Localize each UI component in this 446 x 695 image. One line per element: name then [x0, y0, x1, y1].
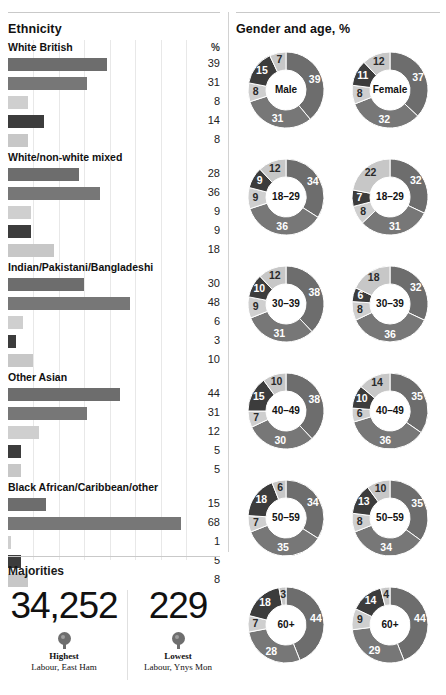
donut-chart: 38319101230–39	[236, 254, 336, 358]
ethnicity-group: White British%39318148	[0, 40, 228, 150]
donut-center-label: 40–49	[236, 405, 336, 416]
donut-slice-label: 13	[354, 496, 374, 507]
majority-lowest-sub: Labour, Ynys Mon	[130, 662, 226, 673]
bar-value-label: 15	[196, 497, 220, 509]
donut-chart: 4429914460+	[340, 575, 440, 679]
donut-center-label: 18–29	[340, 191, 440, 202]
ethnicity-group-label: White British%	[0, 40, 228, 55]
donut-slice-label: 3	[273, 589, 293, 600]
bar	[8, 115, 44, 128]
donut-slice-label: 18	[364, 272, 384, 283]
donut-slice-label: 31	[267, 113, 287, 124]
donut-slice-label: 36	[380, 329, 400, 340]
ethnicity-group: Other Asian44311255	[0, 370, 228, 480]
donut-row: 3435718650–5935348131050–59	[228, 468, 446, 575]
donut-row: 38319101230–393236861830–39	[228, 254, 446, 361]
donut-slice-label: 10	[267, 376, 287, 387]
bar-value-label: 3	[196, 334, 220, 346]
bar-row: 18	[0, 241, 228, 260]
donut-slice-label: 22	[361, 167, 381, 178]
bar-row: 36	[0, 184, 228, 203]
bar	[8, 77, 87, 90]
donut-slice-label: 12	[265, 270, 285, 281]
bar	[8, 517, 181, 530]
majority-lowest-number: 229	[130, 586, 226, 626]
bar	[8, 536, 11, 549]
bar-row: 6	[0, 313, 228, 332]
donut-row: 39318157Male373281112Female	[228, 40, 446, 147]
ethnicity-group-label: Other Asian	[0, 370, 228, 385]
donut-chart: 3436991218–29	[236, 147, 336, 251]
bar-row: 39	[0, 55, 228, 74]
donut-center-label: Male	[236, 84, 336, 95]
majority-lowest: 229 Lowest Labour, Ynys Mon	[130, 586, 226, 673]
donut-slice-label: 39	[305, 74, 325, 85]
bar-value-label: 48	[196, 296, 220, 308]
bar-value-label: 9	[196, 205, 220, 217]
donut-slice	[390, 159, 428, 213]
divider-top-right	[236, 12, 440, 13]
infographic-page: Ethnicity Gender and age, % White Britis…	[0, 0, 446, 695]
donut-row: 38307151040–4935366101440–49	[228, 361, 446, 468]
bar-value-label: 12	[196, 425, 220, 437]
donut-slice-label: 11	[353, 70, 373, 81]
majority-highest-label: Highest	[4, 651, 124, 662]
bar-value-label: 68	[196, 516, 220, 528]
donut-slice-label: 30	[270, 435, 290, 446]
bar-row: 8	[0, 131, 228, 150]
bar	[8, 244, 54, 257]
majority-highest-sub: Labour, East Ham	[4, 662, 124, 673]
donut-slice-label: 32	[374, 114, 394, 125]
bar-row: 48	[0, 294, 228, 313]
donut-slice-label: 10	[249, 283, 269, 294]
map-pin-icon	[172, 632, 185, 649]
bar-row: 9	[0, 203, 228, 222]
donut-slice-label: 18	[255, 597, 275, 608]
bar-value-label: 39	[196, 57, 220, 69]
majorities-section: Majorities 34,252 Highest Labour, East H…	[0, 556, 228, 695]
bar	[8, 225, 31, 238]
donut-center-label: 60+	[236, 619, 336, 630]
donut-chart: 3435718650–59	[236, 468, 336, 572]
bar-row: 12	[0, 423, 228, 442]
bar-row: 31	[0, 74, 228, 93]
majority-highest-number: 34,252	[4, 586, 124, 626]
bar	[8, 134, 28, 147]
bar	[8, 445, 21, 458]
donut-slice-label: 36	[375, 435, 395, 446]
majorities-heading: Majorities	[8, 564, 64, 578]
bar-row: 1	[0, 533, 228, 552]
bar-row: 15	[0, 495, 228, 514]
bar	[8, 388, 120, 401]
donut-slice-label: 7	[269, 54, 289, 65]
bar-value-label: 36	[196, 186, 220, 198]
bar	[8, 316, 23, 329]
bar	[8, 297, 130, 310]
bar-row: 5	[0, 461, 228, 480]
donut-center-label: Female	[340, 84, 440, 95]
donut-slice-label: 31	[385, 221, 405, 232]
donut-slice-label: 34	[303, 176, 323, 187]
donut-slice-label: 34	[376, 542, 396, 553]
bar	[8, 206, 31, 219]
bar-value-label: 30	[196, 277, 220, 289]
donut-slice-label: 14	[367, 377, 387, 388]
ethnicity-group-label: White/non-white mixed	[0, 150, 228, 165]
donut-center-label: 30–39	[340, 298, 440, 309]
divider-top-left	[8, 12, 220, 13]
donut-slice-label: 12	[265, 163, 285, 174]
bar-value-label: 31	[196, 406, 220, 418]
divider-majorities	[8, 556, 220, 557]
majority-highest: 34,252 Highest Labour, East Ham	[4, 586, 124, 673]
donut-slice-label: 32	[406, 175, 426, 186]
donut-slice-label: 35	[273, 542, 293, 553]
bar-value-label: 18	[196, 243, 220, 255]
bar	[8, 464, 21, 477]
gender-age-heading: Gender and age, %	[236, 22, 350, 36]
bar	[8, 354, 33, 367]
bar-row: 3	[0, 332, 228, 351]
bar	[8, 498, 46, 511]
donut-slice-label: 35	[407, 498, 427, 509]
bar-value-label: 10	[196, 353, 220, 365]
donut-slice-label: 4	[376, 589, 396, 600]
